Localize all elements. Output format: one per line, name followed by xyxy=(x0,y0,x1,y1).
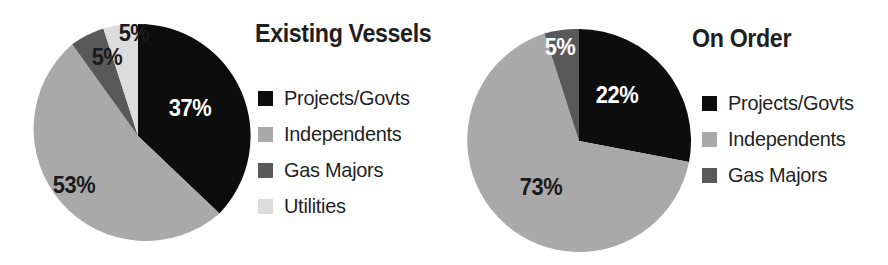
pie-slice-projects-govts xyxy=(579,29,691,162)
legend-swatch-independents-icon xyxy=(702,132,717,147)
pie-chart-on-order xyxy=(466,28,692,254)
panel-existing-vessels: 37% 53% 5% 5% Existing Vessels Projects/… xyxy=(0,0,444,265)
chart-title-existing-vessels: Existing Vessels xyxy=(255,20,431,46)
legend-label-independents: Independents xyxy=(728,128,846,150)
legend-item-independents[interactable]: Independents xyxy=(258,116,416,152)
pie-chart-existing-vessels xyxy=(25,23,251,249)
legend-item-utilities[interactable]: Utilities xyxy=(258,188,416,224)
legend-swatch-gas-majors-icon xyxy=(258,163,273,178)
legend-on-order: Projects/Govts Independents Gas Majors xyxy=(702,85,860,193)
legend-item-projects-govts[interactable]: Projects/Govts xyxy=(258,80,416,116)
legend-swatch-gas-majors-icon xyxy=(702,168,717,183)
legend-item-projects-govts[interactable]: Projects/Govts xyxy=(702,85,860,121)
legend-label-projects-govts: Projects/Govts xyxy=(284,87,410,109)
legend-label-projects-govts: Projects/Govts xyxy=(728,92,854,114)
legend-swatch-projects-govts-icon xyxy=(258,91,273,106)
chart-title-on-order: On Order xyxy=(692,25,791,51)
pie-svg-existing xyxy=(25,23,251,249)
legend-label-gas-majors: Gas Majors xyxy=(284,159,383,181)
pie-svg-on-order xyxy=(466,28,692,254)
legend-label-utilities: Utilities xyxy=(284,195,346,217)
legend-label-independents: Independents xyxy=(284,123,402,145)
legend-label-gas-majors: Gas Majors xyxy=(728,164,827,186)
legend-swatch-utilities-icon xyxy=(258,199,273,214)
legend-item-gas-majors[interactable]: Gas Majors xyxy=(702,157,860,193)
pie-chart-figure: 37% 53% 5% 5% Existing Vessels Projects/… xyxy=(0,0,888,265)
legend-item-gas-majors[interactable]: Gas Majors xyxy=(258,152,416,188)
legend-item-independents[interactable]: Independents xyxy=(702,121,860,157)
legend-existing-vessels: Projects/Govts Independents Gas Majors U… xyxy=(258,80,416,224)
legend-swatch-independents-icon xyxy=(258,127,273,142)
legend-swatch-projects-govts-icon xyxy=(702,96,717,111)
panel-on-order: 22% 73% 5% On Order Projects/Govts Indep… xyxy=(444,0,888,265)
